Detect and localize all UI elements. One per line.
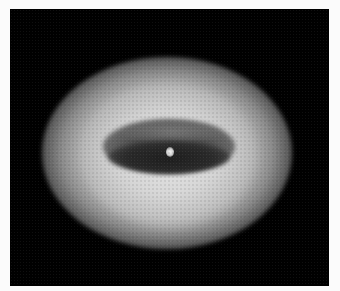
bright-spot bbox=[166, 147, 174, 157]
image-frame bbox=[10, 9, 329, 286]
core-lower-shadow bbox=[108, 141, 230, 173]
core-upper-rim bbox=[122, 121, 222, 143]
